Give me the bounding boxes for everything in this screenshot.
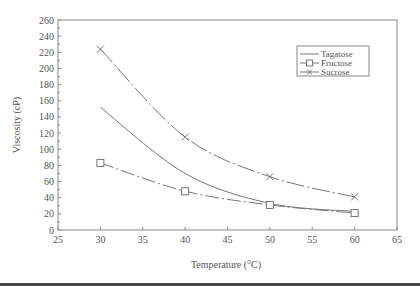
viscosity-chart: 020406080100120140160180200220240260 253… xyxy=(0,0,420,286)
x-tick-label: 60 xyxy=(350,234,360,245)
x-tick-label: 65 xyxy=(392,234,402,245)
series-fructose xyxy=(97,159,358,216)
x-tick-label: 30 xyxy=(95,234,105,245)
x-marker xyxy=(351,193,358,200)
x-tick-label: 25 xyxy=(53,234,63,245)
y-tick-label: 80 xyxy=(44,160,54,171)
y-tick-label: 120 xyxy=(39,128,54,139)
x-tick-label: 35 xyxy=(138,234,148,245)
x-marker xyxy=(97,46,104,53)
y-tick-label: 40 xyxy=(44,192,54,203)
y-tick-label: 220 xyxy=(39,47,54,58)
y-tick-label: 20 xyxy=(44,208,54,219)
x-tick-label: 55 xyxy=(307,234,317,245)
x-tick-label: 40 xyxy=(180,234,190,245)
square-marker xyxy=(97,159,104,166)
x-tick-label: 50 xyxy=(265,234,275,245)
y-tick-label: 200 xyxy=(39,63,54,74)
y-tick-label: 180 xyxy=(39,79,54,90)
x-marker xyxy=(182,134,189,141)
x-axis-label: Temperature (°C) xyxy=(191,259,261,271)
x-marker xyxy=(266,173,273,180)
y-tick-label: 240 xyxy=(39,31,54,42)
y-tick-label: 260 xyxy=(39,15,54,26)
y-tick-label: 140 xyxy=(39,111,54,122)
x-tick-label: 45 xyxy=(223,234,233,245)
y-tick-label: 160 xyxy=(39,95,54,106)
square-marker xyxy=(182,188,189,195)
series-tagatose xyxy=(100,107,354,211)
square-marker xyxy=(351,210,358,217)
y-tick-label: 100 xyxy=(39,144,54,155)
square-marker xyxy=(266,201,273,208)
legend-label: Sucrose xyxy=(321,67,350,77)
legend: TagatoseFructoseSucrose xyxy=(297,46,369,77)
y-axis-label: Viscosity (cP) xyxy=(11,97,23,153)
y-tick-label: 60 xyxy=(44,176,54,187)
